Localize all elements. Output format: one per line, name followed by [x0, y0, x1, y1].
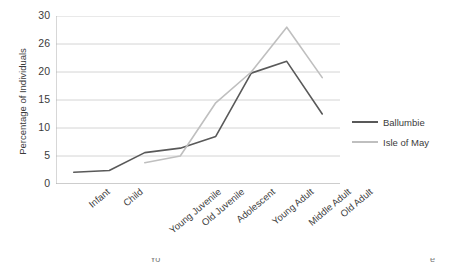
legend-item[interactable]: Ballumbie — [352, 112, 456, 132]
line-chart-figure: Percentage of Individuals 051015202630 I… — [0, 0, 459, 267]
series-line — [145, 27, 323, 163]
crop-fragment: e — [430, 258, 435, 264]
x-tick-label: Infant — [86, 186, 111, 210]
chart-legend: BallumbieIsle of May — [352, 112, 456, 152]
cropped-caption-artifact: Yoe — [0, 258, 459, 267]
x-axis-tick-labels: InfantChildYoung JuvenileOld JuvenileAdo… — [56, 186, 340, 266]
legend-swatch — [352, 121, 378, 123]
y-tick-label: 10 — [24, 122, 50, 133]
y-tick-label: 20 — [24, 66, 50, 77]
legend-label: Isle of May — [383, 137, 429, 148]
y-tick-label: 30 — [24, 10, 50, 21]
plot-svg — [56, 16, 340, 184]
legend-label: Ballumbie — [383, 117, 425, 128]
crop-fragment: Yo — [150, 258, 160, 264]
plot-area — [56, 16, 340, 184]
y-axis-tick-labels: 051015202630 — [22, 16, 50, 184]
legend-swatch — [352, 141, 378, 143]
y-tick-label: 15 — [24, 94, 50, 105]
y-tick-label: 5 — [24, 150, 50, 161]
y-tick-label: 26 — [24, 38, 50, 49]
y-tick-label: 0 — [24, 178, 50, 189]
x-tick-label: Child — [121, 186, 145, 208]
legend-item[interactable]: Isle of May — [352, 132, 456, 152]
